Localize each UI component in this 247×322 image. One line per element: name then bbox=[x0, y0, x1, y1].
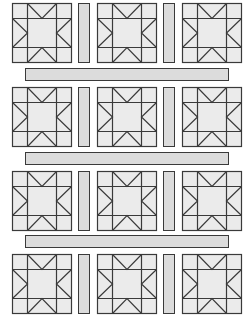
vertical-sash bbox=[79, 255, 90, 314]
vertical-sash bbox=[79, 88, 90, 147]
star-block bbox=[13, 172, 72, 231]
star-block bbox=[98, 172, 157, 231]
vertical-sash bbox=[164, 255, 175, 314]
star-block bbox=[98, 255, 157, 314]
vertical-sash bbox=[164, 172, 175, 231]
horizontal-sash bbox=[26, 236, 229, 248]
star-block bbox=[98, 4, 157, 63]
star-block bbox=[13, 4, 72, 63]
vertical-sash bbox=[164, 88, 175, 147]
star-block bbox=[98, 88, 157, 147]
star-block bbox=[183, 88, 242, 147]
star-block bbox=[183, 255, 242, 314]
vertical-sash bbox=[79, 4, 90, 63]
vertical-sash bbox=[79, 172, 90, 231]
horizontal-sash bbox=[26, 69, 229, 81]
quilt-diagram bbox=[0, 0, 247, 322]
star-block bbox=[13, 88, 72, 147]
star-block bbox=[183, 172, 242, 231]
star-block bbox=[13, 255, 72, 314]
horizontal-sash bbox=[26, 153, 229, 165]
vertical-sash bbox=[164, 4, 175, 63]
star-block bbox=[183, 4, 242, 63]
